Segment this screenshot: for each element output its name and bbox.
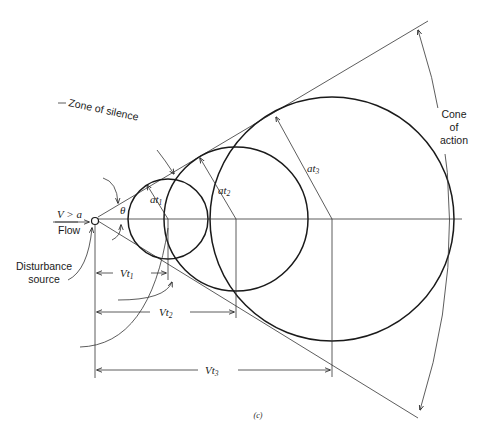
flow-condition-label: V > a: [57, 208, 82, 220]
mach-cone-diagram: Zone of silence Cone of action V > a Flo…: [0, 0, 487, 441]
theta-upper-arrow: [103, 178, 118, 203]
disturbance-label-line1: Disturbance: [16, 260, 72, 272]
cone-label-line2: of: [450, 121, 459, 133]
zone-of-silence-label: Zone of silence: [68, 96, 140, 123]
figure-caption: (c): [254, 411, 263, 420]
cone-of-action-arc: [418, 30, 450, 410]
cone-label-line3: action: [440, 134, 468, 146]
radius-arrow-3: [276, 117, 332, 219]
radius-label-2: at2: [218, 184, 231, 198]
zone-of-silence-leader: [157, 150, 174, 174]
radius-label-1: at1: [150, 193, 162, 207]
sweep-arc-2: [80, 228, 168, 347]
disturbance-source-point: [92, 218, 99, 225]
radius-label-3: at3: [307, 162, 320, 176]
cone-label-line1: Cone: [441, 108, 466, 120]
sweep-arc-1: [118, 282, 172, 300]
flow-label: Flow: [58, 224, 81, 236]
lower-mach-line: [98, 221, 418, 418]
theta-label: θ: [120, 204, 126, 216]
disturbance-label-line2: source: [28, 273, 60, 285]
